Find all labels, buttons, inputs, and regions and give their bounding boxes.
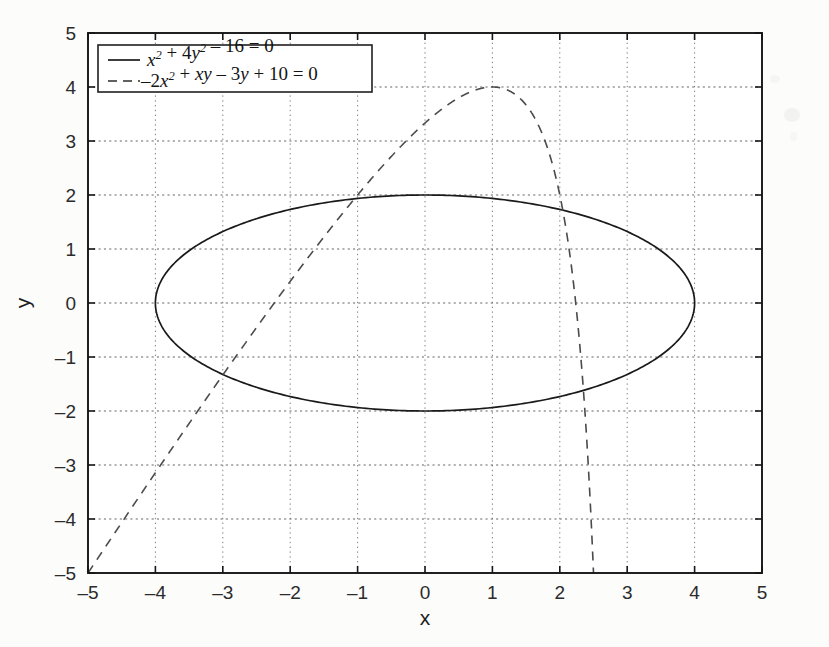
x-tick-label: –2 — [280, 582, 301, 603]
y-tick-label: –1 — [55, 347, 76, 368]
x-tick-label: –4 — [145, 582, 167, 603]
x-tick-label: –1 — [347, 582, 368, 603]
y-tick-label: 0 — [65, 293, 76, 314]
x-tick-label: 1 — [487, 582, 498, 603]
y-tick-labels: 543210–1–2–3–4–5 — [55, 23, 77, 584]
y-tick-label: –3 — [55, 455, 76, 476]
y-tick-label: 2 — [65, 185, 76, 206]
y-tick-label: 4 — [65, 77, 76, 98]
x-tick-label: 4 — [689, 582, 700, 603]
y-tick-label: –2 — [55, 401, 76, 422]
x-tick-label: 2 — [555, 582, 566, 603]
x-tick-label: 5 — [757, 582, 768, 603]
y-tick-label: 3 — [65, 131, 76, 152]
y-tick-label: –5 — [55, 563, 76, 584]
y-axis-title: y — [11, 297, 34, 308]
x-tick-label: 3 — [622, 582, 633, 603]
x-tick-labels: –5–4–3–2–1012345 — [77, 582, 767, 603]
x-tick-label: 0 — [420, 582, 431, 603]
y-tick-label: 5 — [65, 23, 76, 44]
plot-svg: –5–4–3–2–1012345 543210–1–2–3–4–5 x y x2… — [0, 0, 829, 647]
x-tick-label: –5 — [77, 582, 98, 603]
x-tick-label: –3 — [212, 582, 233, 603]
y-tick-label: –4 — [55, 509, 77, 530]
y-tick-label: 1 — [65, 239, 76, 260]
x-axis-title: x — [420, 606, 431, 629]
figure-canvas: –5–4–3–2–1012345 543210–1–2–3–4–5 x y x2… — [0, 0, 829, 647]
